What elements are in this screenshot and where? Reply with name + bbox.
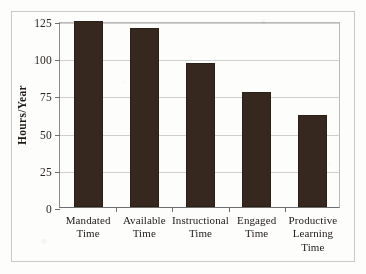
x-axis-label-line: Time	[123, 227, 166, 240]
y-axis-tick	[55, 97, 60, 98]
y-axis-tick	[55, 60, 60, 61]
y-axis-tick-label: 25	[40, 166, 52, 178]
y-axis-tick	[55, 135, 60, 136]
x-axis-label: MandatedTime	[66, 214, 111, 241]
y-axis-tick-label: 125	[34, 17, 52, 29]
y-axis-tick-label: 100	[34, 54, 52, 66]
y-axis-tick-label: 75	[40, 91, 52, 103]
x-axis-label: InstructionalTime	[172, 214, 229, 241]
x-axis-label-line: Productive	[289, 214, 338, 227]
bar-chart-figure: Hours/Year 0255075100125 MandatedTimeAva…	[0, 0, 366, 274]
bar	[298, 115, 327, 207]
x-axis-label-line: Mandated	[66, 214, 111, 227]
x-axis-label: ProductiveLearningTime	[289, 214, 338, 254]
x-axis-label-line: Time	[237, 227, 276, 240]
y-axis-tick	[55, 209, 60, 210]
x-axis-tick	[285, 207, 286, 212]
y-axis-tick	[55, 172, 60, 173]
x-axis-label-line: Time	[66, 227, 111, 240]
x-axis-label-line: Engaged	[237, 214, 276, 227]
bar	[242, 92, 271, 207]
x-axis-tick	[229, 207, 230, 212]
x-axis-tick	[116, 207, 117, 212]
x-axis-label-line: Available	[123, 214, 166, 227]
plot-area: 0255075100125 MandatedTimeAvailableTimeI…	[59, 22, 340, 208]
bar	[186, 63, 215, 207]
x-axis-label-line: Instructional	[172, 214, 229, 227]
x-axis-label-line: Time	[172, 227, 229, 240]
x-axis-label-line: Time	[289, 241, 338, 254]
bar	[74, 21, 103, 207]
x-axis-label-line: Learning	[289, 227, 338, 240]
x-axis-tick	[172, 207, 173, 212]
x-axis-label: AvailableTime	[123, 214, 166, 241]
y-axis-tick-label: 0	[46, 203, 52, 215]
bar	[130, 28, 159, 207]
x-axis-label: EngagedTime	[237, 214, 276, 241]
y-axis-tick	[55, 23, 60, 24]
y-axis-tick-label: 50	[40, 129, 52, 141]
y-axis-title: Hours/Year	[16, 85, 28, 145]
